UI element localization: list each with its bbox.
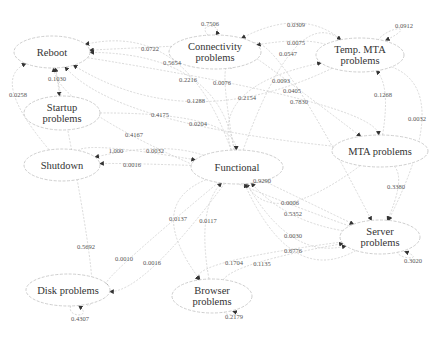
edge-probability-label: 0.0032 xyxy=(146,147,164,154)
edge-probability-label: 1.000 xyxy=(109,147,124,154)
edge-probability-label: 0.0076 xyxy=(213,79,231,86)
edge-probability-label: 0.5352 xyxy=(284,210,302,217)
state-label-disk: Disk problems xyxy=(37,285,99,296)
transition-edge xyxy=(65,67,334,146)
state-label-startup: Startupproblems xyxy=(42,102,81,124)
edge-probability-label: 0.0075 xyxy=(287,39,305,46)
edge-probability-label: 0.3380 xyxy=(387,183,405,190)
edge-probability-label: 0.0405 xyxy=(283,87,301,94)
state-transition-diagram: 0.75060.09120.30200.43070.21790.07220.10… xyxy=(0,0,443,341)
edge-probability-label: 0.2179 xyxy=(225,313,243,320)
edge-probability-label: 0.0030 xyxy=(284,232,302,239)
transition-edge xyxy=(251,183,343,231)
transition-edge xyxy=(110,183,225,291)
edge-probability-label: 0.1268 xyxy=(374,91,392,98)
edge-probability-label: 0.9290 xyxy=(253,177,271,184)
edge-probability-label: 0.5654 xyxy=(163,59,181,66)
state-label-server: Serverproblems xyxy=(360,226,399,248)
edge-probability-label: 0.4167 xyxy=(125,131,143,138)
transition-edge xyxy=(100,163,191,165)
edge-probability-label: 0.0016 xyxy=(123,161,141,168)
edge-probability-label: 0.5692 xyxy=(77,243,95,250)
state-label-shutdown: Shutdown xyxy=(41,160,84,171)
edge-probability-label: 0.0309 xyxy=(287,21,305,28)
state-label-mta: MTA problems xyxy=(348,146,412,157)
edge-probability-label: 0.0547 xyxy=(279,50,297,57)
transition-edge xyxy=(378,29,401,40)
edge-probability-label: 0.1288 xyxy=(187,97,205,104)
transition-edge xyxy=(174,180,207,280)
edge-probability-label: 0.1135 xyxy=(253,260,271,267)
transition-edge xyxy=(387,166,398,220)
edge-probability-label: 0.6776 xyxy=(284,247,302,254)
edge-probability-label: 0.7506 xyxy=(201,20,219,27)
edge-probability-label: 0.4175 xyxy=(151,111,169,118)
edge-probability-label: 0.3020 xyxy=(404,257,422,264)
edge-probability-label: 0.2154 xyxy=(238,94,256,101)
edge-probability-label: 0.0010 xyxy=(115,255,133,262)
edge-probability-label: 0.0258 xyxy=(9,91,27,98)
transition-edge xyxy=(205,183,222,279)
edge-probability-label: 0.0016 xyxy=(143,259,161,266)
edge-probability-label: 0.0912 xyxy=(395,22,413,29)
edge-probability-label: 0.0093 xyxy=(272,77,290,84)
transition-edge xyxy=(90,46,172,50)
state-label-connectivity: Connectivityproblems xyxy=(188,41,242,63)
edge-probability-label: 0.2216 xyxy=(179,76,197,83)
edge-probability-label: 0.1704 xyxy=(225,259,243,266)
state-label-temp-mta: Temp. MTAproblems xyxy=(334,44,386,66)
edge-probability-label: 0.1030 xyxy=(48,75,66,82)
state-label-reboot: Reboot xyxy=(37,47,67,58)
transition-edge xyxy=(106,183,218,285)
edge-probability-label: 0.4307 xyxy=(71,315,89,322)
edge-probability-label: 0.7830 xyxy=(290,98,308,105)
state-label-functional: Functional xyxy=(215,162,260,173)
edge-probability-label: 0.0204 xyxy=(189,120,207,127)
edge-probability-label: 0.0137 xyxy=(169,215,187,222)
transition-edge xyxy=(205,26,218,35)
edge-probability-label: 0.0032 xyxy=(408,115,426,122)
transition-edge xyxy=(54,68,350,226)
edge-probability-label: 0.0722 xyxy=(141,45,159,52)
edge-probability-label: 0.0117 xyxy=(199,217,217,224)
edge-probability-label: 0.0006 xyxy=(281,199,299,206)
transition-edge xyxy=(376,71,385,135)
state-label-browser: Browserproblems xyxy=(192,285,231,307)
